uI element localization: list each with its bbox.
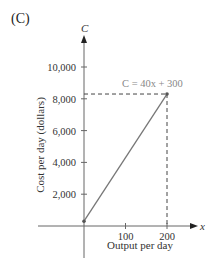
x-axis-title: Output per day bbox=[107, 239, 173, 251]
y-axis-var: C bbox=[81, 22, 89, 34]
data-point bbox=[165, 92, 169, 96]
y-axis-title: Cost per day (dollars) bbox=[34, 97, 47, 193]
y-tick-label: 6,000 bbox=[52, 126, 76, 137]
y-tick-label: 8,000 bbox=[52, 94, 76, 105]
y-ticks: 2,0004,0006,0008,00010,000 bbox=[47, 62, 87, 200]
x-axis-var: x bbox=[199, 220, 205, 232]
y-tick-label: 4,000 bbox=[52, 157, 76, 168]
y-tick-label: 10,000 bbox=[47, 62, 76, 73]
y-tick-label: 2,000 bbox=[52, 189, 76, 200]
cost-chart: x C 2,0004,0006,0008,00010,000 100200 Ou… bbox=[0, 0, 211, 271]
x-axis-arrow-icon bbox=[190, 223, 198, 229]
cost-line bbox=[84, 94, 167, 221]
series bbox=[82, 92, 169, 223]
data-point bbox=[82, 219, 86, 223]
y-axis-arrow-icon bbox=[81, 35, 87, 43]
equation-label: C = 40x + 300 bbox=[122, 78, 183, 89]
